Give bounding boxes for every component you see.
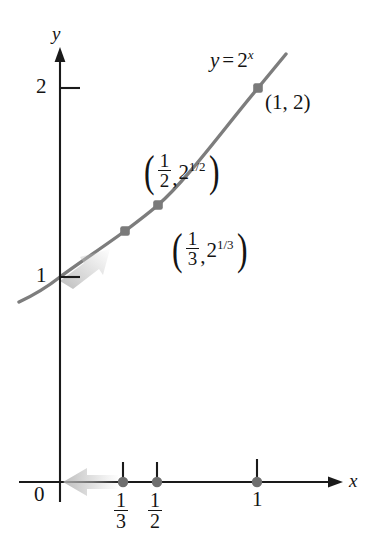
equation-equals: = — [219, 48, 237, 72]
fraction-one-third-annotation: 1 3 — [186, 229, 200, 270]
pair-separator: , — [171, 168, 178, 189]
equation-exponent: x — [248, 47, 254, 62]
right-paren: ) — [237, 233, 248, 267]
ordered-pair-one-half: ( 1 2 , 21/2 ) — [142, 152, 221, 193]
exponential-function-graph: y x 0 2 1 1 3 1 2 1 y=2x (1, 2) ( 1 — [0, 0, 370, 543]
curve-point-one-two — [253, 83, 263, 93]
curve-equation-label: y=2x — [210, 50, 253, 71]
x-axis-dot-one-third — [118, 477, 128, 487]
curve-point-one-third — [120, 226, 130, 236]
point-label-one-two: (1, 2) — [265, 92, 311, 113]
right-paren: ) — [209, 155, 220, 189]
x-tick-label-one-third: 1 3 — [114, 491, 128, 534]
x-tick-label-one-half: 1 2 — [148, 491, 162, 534]
x-tick-label-one: 1 — [252, 489, 263, 510]
x-axis-dot-one — [252, 477, 262, 487]
y-axis-label: y — [52, 24, 60, 43]
fraction-one-third: 1 3 — [114, 490, 128, 533]
point-label-one-third: ( 1 3 , 21/3 ) — [170, 230, 249, 271]
left-paren: ( — [172, 233, 183, 267]
origin-label: 0 — [34, 484, 45, 505]
y-tick-marks — [60, 88, 80, 277]
x-axis-dot-one-half — [152, 477, 162, 487]
point-label-one-half: ( 1 2 , 21/2 ) — [142, 152, 221, 193]
y-tick-label-2: 2 — [36, 76, 47, 97]
curve-limit-arrow — [60, 249, 110, 289]
fraction-one-half: 1 2 — [148, 490, 162, 533]
x-axis-limit-arrow — [63, 468, 118, 496]
ordered-pair-one-third: ( 1 3 , 21/3 ) — [170, 230, 249, 271]
x-tick-marks — [123, 459, 257, 482]
equation-lhs: y — [210, 48, 219, 72]
power-two-root-two: 21/2 — [178, 162, 205, 183]
equation-base: 2 — [237, 48, 248, 72]
pair-separator: , — [199, 246, 206, 267]
y-tick-label-1: 1 — [36, 265, 47, 286]
graph-canvas — [0, 0, 370, 543]
left-paren: ( — [144, 155, 155, 189]
power-two-root-three: 21/3 — [206, 240, 233, 261]
curve-point-one-half — [153, 200, 163, 210]
x-axis-label: x — [349, 471, 357, 490]
fraction-one-half-annotation: 1 2 — [158, 151, 172, 192]
